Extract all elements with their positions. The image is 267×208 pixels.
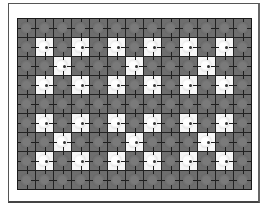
tile[interactable] xyxy=(90,152,107,170)
tile[interactable] xyxy=(54,171,71,189)
tile[interactable] xyxy=(18,95,35,113)
revealed-tile[interactable] xyxy=(216,76,233,94)
tile[interactable] xyxy=(126,114,143,132)
tile[interactable] xyxy=(18,57,35,75)
tile[interactable] xyxy=(216,95,233,113)
tile[interactable] xyxy=(216,19,233,37)
tile[interactable] xyxy=(18,76,35,94)
tile[interactable] xyxy=(180,19,197,37)
revealed-tile[interactable] xyxy=(108,114,125,132)
revealed-tile[interactable] xyxy=(144,152,161,170)
tile[interactable] xyxy=(18,171,35,189)
revealed-tile[interactable] xyxy=(144,76,161,94)
tile[interactable] xyxy=(234,171,251,189)
tile[interactable] xyxy=(198,152,215,170)
tile[interactable] xyxy=(108,133,125,151)
tile[interactable] xyxy=(162,133,179,151)
tile[interactable] xyxy=(126,19,143,37)
tile[interactable] xyxy=(54,76,71,94)
revealed-tile[interactable] xyxy=(216,114,233,132)
tile[interactable] xyxy=(198,114,215,132)
tile[interactable] xyxy=(126,76,143,94)
revealed-tile[interactable] xyxy=(36,76,53,94)
tile[interactable] xyxy=(108,19,125,37)
tile[interactable] xyxy=(216,133,233,151)
tile[interactable] xyxy=(90,38,107,56)
tile[interactable] xyxy=(90,57,107,75)
tile[interactable] xyxy=(90,133,107,151)
revealed-tile[interactable] xyxy=(180,114,197,132)
tile[interactable] xyxy=(162,38,179,56)
revealed-tile[interactable] xyxy=(36,114,53,132)
revealed-tile[interactable] xyxy=(144,114,161,132)
revealed-tile[interactable] xyxy=(72,114,89,132)
revealed-tile[interactable] xyxy=(144,38,161,56)
tile[interactable] xyxy=(36,171,53,189)
tile[interactable] xyxy=(90,171,107,189)
revealed-tile[interactable] xyxy=(108,152,125,170)
tile[interactable] xyxy=(36,95,53,113)
revealed-tile[interactable] xyxy=(36,38,53,56)
revealed-tile[interactable] xyxy=(198,57,215,75)
tile[interactable] xyxy=(162,19,179,37)
tile[interactable] xyxy=(90,76,107,94)
tile[interactable] xyxy=(72,57,89,75)
tile[interactable] xyxy=(162,95,179,113)
revealed-tile[interactable] xyxy=(216,38,233,56)
revealed-tile[interactable] xyxy=(54,57,71,75)
revealed-tile[interactable] xyxy=(180,152,197,170)
tile[interactable] xyxy=(54,38,71,56)
tile[interactable] xyxy=(216,57,233,75)
tile[interactable] xyxy=(144,19,161,37)
tile[interactable] xyxy=(198,76,215,94)
tile[interactable] xyxy=(234,57,251,75)
revealed-tile[interactable] xyxy=(180,76,197,94)
tile[interactable] xyxy=(126,95,143,113)
revealed-tile[interactable] xyxy=(180,38,197,56)
revealed-tile[interactable] xyxy=(126,133,143,151)
tile[interactable] xyxy=(54,114,71,132)
tile[interactable] xyxy=(90,114,107,132)
tile[interactable] xyxy=(72,133,89,151)
tile[interactable] xyxy=(234,95,251,113)
tile[interactable] xyxy=(54,95,71,113)
tile[interactable] xyxy=(18,38,35,56)
tile[interactable] xyxy=(36,133,53,151)
revealed-tile[interactable] xyxy=(216,152,233,170)
tile[interactable] xyxy=(144,57,161,75)
tile[interactable] xyxy=(144,171,161,189)
tile[interactable] xyxy=(144,95,161,113)
tile[interactable] xyxy=(126,38,143,56)
tile[interactable] xyxy=(162,57,179,75)
tile[interactable] xyxy=(180,171,197,189)
revealed-tile[interactable] xyxy=(54,133,71,151)
tile[interactable] xyxy=(198,171,215,189)
tile[interactable] xyxy=(90,19,107,37)
tile[interactable] xyxy=(234,133,251,151)
revealed-tile[interactable] xyxy=(72,38,89,56)
revealed-tile[interactable] xyxy=(108,38,125,56)
tile[interactable] xyxy=(54,19,71,37)
tile[interactable] xyxy=(180,133,197,151)
revealed-tile[interactable] xyxy=(198,133,215,151)
tile[interactable] xyxy=(162,171,179,189)
tile[interactable] xyxy=(180,57,197,75)
tile[interactable] xyxy=(180,95,197,113)
tile[interactable] xyxy=(72,19,89,37)
revealed-tile[interactable] xyxy=(36,152,53,170)
tile[interactable] xyxy=(72,171,89,189)
tile[interactable] xyxy=(18,114,35,132)
tile[interactable] xyxy=(234,114,251,132)
tile[interactable] xyxy=(126,152,143,170)
tile[interactable] xyxy=(54,152,71,170)
tile[interactable] xyxy=(198,38,215,56)
tile[interactable] xyxy=(108,171,125,189)
revealed-tile[interactable] xyxy=(72,76,89,94)
tile[interactable] xyxy=(162,114,179,132)
tile[interactable] xyxy=(234,38,251,56)
tile[interactable] xyxy=(36,19,53,37)
tile[interactable] xyxy=(216,171,233,189)
tile[interactable] xyxy=(18,152,35,170)
tile[interactable] xyxy=(18,19,35,37)
revealed-tile[interactable] xyxy=(126,57,143,75)
